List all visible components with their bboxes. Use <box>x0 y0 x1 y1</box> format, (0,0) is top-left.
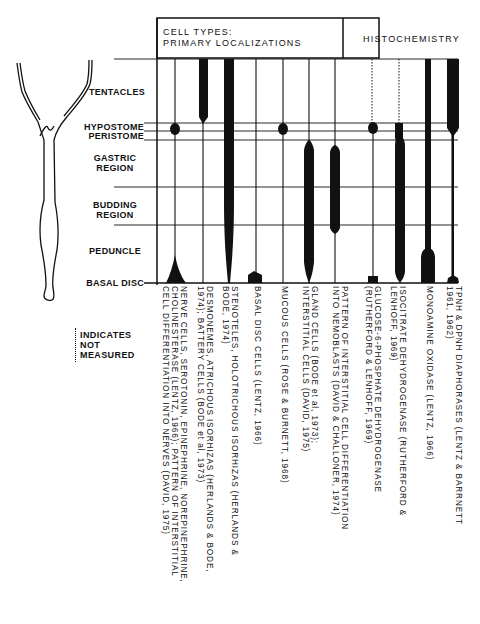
column-label-stenoteles: STENOTELES, HOLOTRICHOUS ISORHIZAS (HERL… <box>221 286 239 556</box>
region-divider-lines <box>114 59 458 283</box>
legend-line1: INDICATES <box>80 330 135 340</box>
column-label-nerve-cells: NERVE CELLS, SEROTONIN, EPINEPHRINE, NOR… <box>161 286 188 583</box>
region-label-gastric: GASTRIC REGION <box>90 153 140 173</box>
region-label-tentacles: TENTACLES <box>88 87 146 97</box>
hydra-diagram-graphics <box>0 0 480 624</box>
column-label-gland-cells: GLAND CELLS (BODE et al, 1973); INTERSTI… <box>301 286 319 452</box>
cell-types-title-line2: PRIMARY LOCALIZATIONS <box>163 38 302 49</box>
region-label-peristome: PERISTOME <box>84 131 144 141</box>
cell-types-header: CELL TYPES: PRIMARY LOCALIZATIONS <box>163 27 302 49</box>
column-label-g6pdh: GLUCOSE-6-PHOSPHATE DEHYDROGENASE (RUTHE… <box>364 286 382 493</box>
column-label-nemoblast-pattern: PATTERN OF INTERSTITIAL CELL DIFFERENTIA… <box>331 286 349 530</box>
legend-not-measured: INDICATES NOT MEASURED <box>80 330 135 360</box>
region-label-budding: BUDDING REGION <box>90 200 140 220</box>
not-measured-dotted-lines <box>372 59 399 125</box>
column-label-basal-disc-cells: BASAL DISC CELLS (LENTZ, 1966) <box>253 286 262 446</box>
legend-line3: MEASURED <box>80 350 135 360</box>
legend-line2: NOT <box>80 340 135 350</box>
column-label-monoamine-oxidase: MONOAMINE OXIDASE (LENTZ, 1966) <box>425 286 434 460</box>
distribution-bars <box>166 59 459 283</box>
region-label-peduncle: PEDUNCLE <box>86 246 144 256</box>
histochemistry-header: HISTOCHEMISTRY <box>363 34 460 45</box>
column-label-desmonemes: DESMONEMES, ATRICHOUS ISORHIZAS (HERLAND… <box>196 286 214 572</box>
hydra-outline-icon <box>17 60 92 300</box>
column-label-mucous-cells: MUCOUS CELLS (ROSE & BURNETT, 1968) <box>280 286 289 484</box>
table-frame <box>157 18 379 285</box>
cell-types-title-line1: CELL TYPES: <box>163 27 302 38</box>
region-label-basal-disc: BASAL DISC <box>84 278 144 288</box>
dotted-line-legend-icon <box>75 328 76 362</box>
column-label-isocitrate: ISOCITRATE DEHYDROGENASE (RUTHERFORD & L… <box>389 286 407 516</box>
column-label-tpnh-dpnh: TPNH & DPNH DIAPHORASES (LENTZ & BARRNET… <box>445 286 463 525</box>
